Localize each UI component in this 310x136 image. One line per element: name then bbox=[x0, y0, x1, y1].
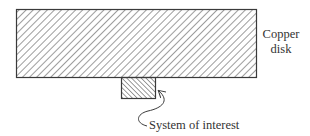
copper-disk-label-line1: Copper bbox=[263, 27, 301, 41]
copper-disk-diagram: Copper disk System of interest bbox=[0, 0, 310, 136]
system-of-interest-region bbox=[122, 78, 156, 99]
system-of-interest-label: System of interest bbox=[149, 118, 240, 132]
copper-disk-label-line2: disk bbox=[271, 42, 293, 56]
copper-disk bbox=[17, 10, 257, 78]
